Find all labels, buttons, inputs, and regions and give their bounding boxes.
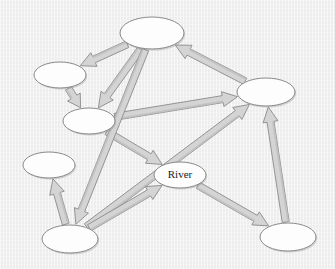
- node-unlabeled[interactable]: [63, 108, 116, 136]
- edge-arrow[interactable]: [80, 41, 128, 66]
- node-ellipse[interactable]: [34, 62, 86, 88]
- edge-arrow[interactable]: [114, 92, 237, 121]
- node-unlabeled[interactable]: [120, 17, 185, 51]
- edge-arrow[interactable]: [263, 107, 289, 223]
- diagram-canvas[interactable]: River: [0, 0, 335, 269]
- edge-arrow[interactable]: [196, 182, 268, 226]
- node-ellipse[interactable]: [237, 78, 295, 106]
- node-unlabeled[interactable]: [42, 225, 99, 255]
- edge-arrow[interactable]: [65, 86, 80, 107]
- edges-layer: [50, 41, 289, 231]
- node-ellipse[interactable]: [120, 17, 184, 49]
- edge-arrow[interactable]: [88, 185, 163, 230]
- node-unlabeled[interactable]: [260, 223, 317, 253]
- edge-arrow[interactable]: [50, 179, 69, 225]
- node-ellipse[interactable]: [154, 162, 206, 188]
- node-unlabeled[interactable]: [34, 62, 87, 90]
- node-unlabeled[interactable]: [23, 152, 76, 180]
- node-ellipse[interactable]: [63, 108, 115, 134]
- node-unlabeled[interactable]: [237, 78, 296, 108]
- node-ellipse[interactable]: [23, 152, 75, 178]
- diagram-svg[interactable]: River: [0, 0, 335, 269]
- node-ellipse[interactable]: [260, 223, 316, 251]
- node-ellipse[interactable]: [42, 225, 98, 253]
- edge-arrow[interactable]: [175, 45, 246, 84]
